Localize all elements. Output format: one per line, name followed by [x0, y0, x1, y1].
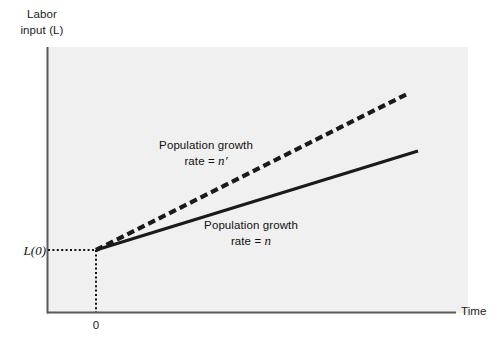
x-tick-label-zero: 0 [76, 319, 116, 331]
annotation-n-prime-line-2: rate = n′ [143, 153, 269, 169]
x-axis-title: Time [461, 305, 487, 317]
annotation-n-prime-prefix: rate = [184, 155, 218, 167]
plot-area [0, 0, 498, 345]
annotation-n-symbol: n [265, 233, 272, 248]
annotation-n-line-1: Population growth [188, 218, 314, 233]
annotation-n-prime-line-1: Population growth [143, 138, 269, 153]
y-tick-label-L0: L(0) [0, 243, 46, 259]
figure-canvas: Labor input (L) L(0) 0 Time Population g… [0, 0, 498, 345]
annotation-n: Population growth rate = n [188, 218, 314, 249]
plot-background [48, 47, 468, 313]
annotation-n-prime: Population growth rate = n′ [143, 138, 269, 169]
annotation-n-line-2: rate = n [188, 233, 314, 249]
annotation-n-prefix: rate = [231, 235, 265, 247]
annotation-n-prime-symbol: n′ [218, 153, 228, 168]
